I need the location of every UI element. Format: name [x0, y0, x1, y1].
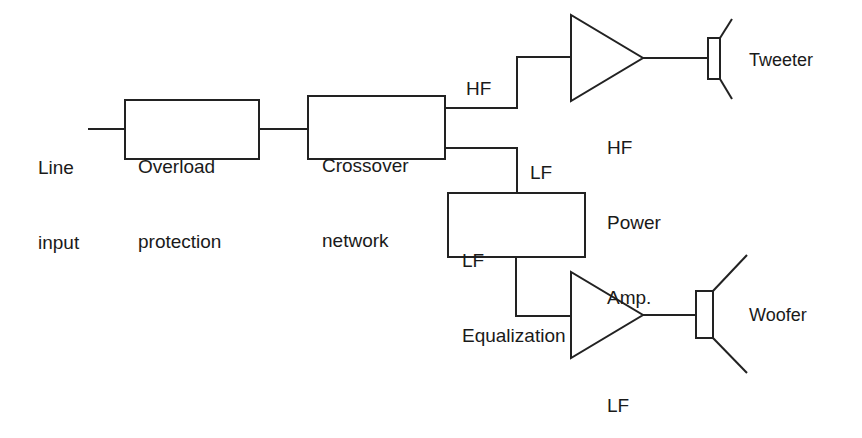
hf-power-amp-label: HF Power Amp. [607, 85, 661, 335]
tweeter-cone-bottom [720, 79, 732, 99]
overload-label-line1: Overload [138, 154, 221, 179]
hf-amp-label-line1: HF [607, 135, 661, 160]
lf-power-amp-label: LF Power Amp. [607, 343, 661, 438]
lf-eq-label-line1: LF [462, 248, 566, 273]
tweeter-cone-top [720, 19, 732, 38]
lf-eq-label-line2: Equalization [462, 323, 566, 348]
crossover-network-label: Crossover network [322, 103, 409, 278]
line-input-label: Line input [38, 105, 79, 280]
woofer-cone-top [713, 255, 747, 291]
woofer-cone-bottom [713, 338, 747, 373]
lf-wire [445, 148, 517, 193]
line-input-label-line2: input [38, 230, 79, 255]
lf-equalization-label: LF Equalization [462, 198, 566, 373]
crossover-label-line1: Crossover [322, 153, 409, 178]
overload-protection-label: Overload protection [138, 104, 221, 279]
hf-signal-label: HF [466, 76, 491, 101]
hf-amp-label-line3: Amp. [607, 285, 661, 310]
tweeter-icon [708, 38, 720, 79]
overload-label-line2: protection [138, 229, 221, 254]
lf-amp-label-line1: LF [607, 393, 661, 418]
lf-signal-label: LF [530, 160, 552, 185]
hf-wire [445, 57, 571, 108]
woofer-label: Woofer [749, 303, 807, 328]
tweeter-label: Tweeter [749, 48, 813, 73]
crossover-label-line2: network [322, 228, 409, 253]
line-input-label-line1: Line [38, 155, 79, 180]
hf-amp-label-line2: Power [607, 210, 661, 235]
woofer-icon [696, 291, 713, 338]
diagram-wiring [0, 0, 862, 438]
